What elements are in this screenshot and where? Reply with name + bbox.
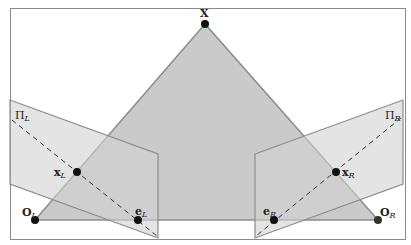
label-X: X: [200, 7, 209, 20]
point-x-L: [73, 168, 81, 176]
epipolar-diagram: X OL OR xL xR eL eR ΠL ΠR: [0, 0, 411, 245]
point-x-R: [332, 168, 340, 176]
point-X: [201, 20, 209, 28]
